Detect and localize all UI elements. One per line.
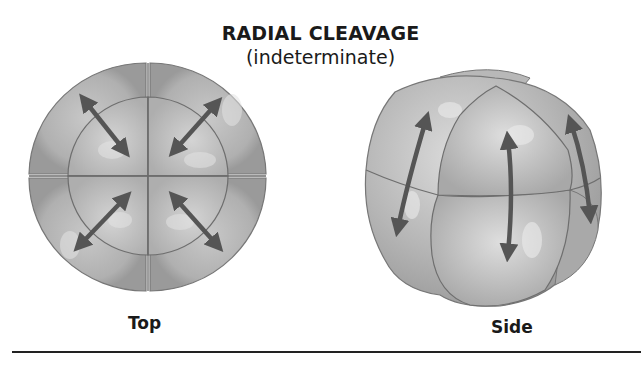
- side-view-label: Side: [491, 317, 533, 337]
- top-view-embryo: [29, 63, 266, 291]
- cleavage-illustration: [0, 0, 641, 371]
- bottom-rule: [12, 351, 641, 353]
- top-view-label: Top: [128, 313, 161, 333]
- side-view-embryo: [365, 70, 601, 307]
